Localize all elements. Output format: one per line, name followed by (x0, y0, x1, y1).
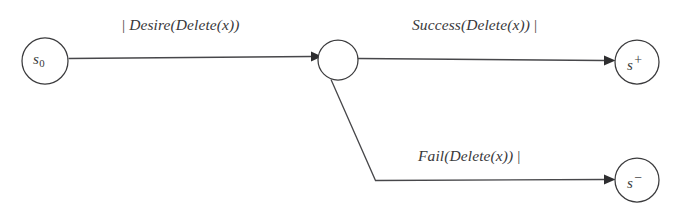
node-label-s-minus: s− (627, 171, 642, 191)
edge-label-desire: | Desire(Delete(x)) (122, 17, 240, 33)
pipe-after-success: | (534, 16, 537, 33)
node-junction (318, 40, 358, 80)
pipe-before-desire: | (122, 16, 125, 33)
pipe-after-fail: | (517, 147, 520, 164)
edge-label-fail: Fail(Delete(x)) | (418, 148, 521, 164)
node-label-s-minus-superscript: − (634, 170, 642, 185)
edge-fail (331, 80, 616, 185)
arrowhead-success (604, 56, 616, 66)
edge-fail-line (331, 80, 604, 181)
state-transition-diagram: | Desire(Delete(x)) Success(Delete(x)) |… (0, 0, 678, 208)
node-label-s0: s0 (33, 52, 45, 69)
edge-label-desire-text: Desire(Delete(x)) (129, 16, 239, 33)
edge-label-success-text: Success(Delete(x)) (412, 16, 530, 33)
node-s0 (22, 38, 68, 84)
edge-desire-line (69, 57, 312, 59)
node-label-s0-subscript: 0 (39, 57, 44, 69)
node-label-s0-base: s (33, 51, 39, 67)
node-label-s-plus-superscript: + (634, 52, 642, 67)
edge-label-success: Success(Delete(x)) | (412, 17, 537, 33)
node-label-s-plus-base: s (627, 57, 633, 73)
edge-success (358, 56, 616, 66)
arrowhead-fail (604, 175, 616, 185)
edge-success-line (358, 59, 604, 61)
edge-desire (69, 52, 323, 62)
node-label-s-plus: s+ (627, 53, 642, 73)
diagram-canvas (0, 0, 678, 208)
edge-label-fail-text: Fail(Delete(x)) (418, 147, 513, 164)
node-label-s-minus-base: s (627, 175, 633, 191)
